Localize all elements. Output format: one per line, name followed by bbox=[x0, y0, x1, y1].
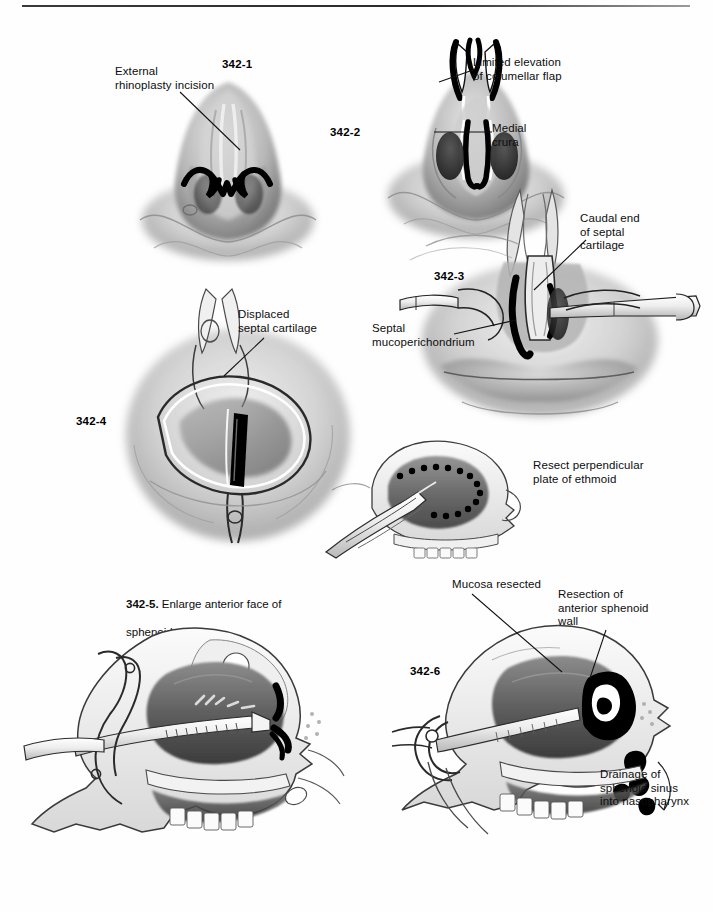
figure-number-342-3: 342-3 bbox=[434, 270, 464, 282]
leader-medial-crura bbox=[432, 124, 494, 140]
figure-number-342-6: 342-6 bbox=[410, 665, 440, 677]
figure-342-5-illustration bbox=[24, 618, 372, 850]
caption-342-5-text: Enlarge anterior face of bbox=[159, 598, 282, 610]
label-medial-crura: Medial crura bbox=[492, 122, 526, 149]
figure-ethmoid-illustration bbox=[318, 430, 538, 565]
leader-caudal-septum bbox=[532, 238, 588, 294]
leader-displaced-septal-cartilage bbox=[222, 336, 266, 378]
figure-number-342-2: 342-2 bbox=[330, 126, 360, 138]
label-limited-elevation-columellar-flap: Limited elevation of columellar flap bbox=[473, 56, 562, 83]
header-rule bbox=[22, 5, 690, 7]
caption-342-5-number: 342-5. bbox=[126, 598, 159, 610]
figure-number-342-4: 342-4 bbox=[76, 415, 106, 427]
leader-external-incision bbox=[178, 88, 248, 158]
figure-342-3-illustration bbox=[400, 190, 700, 425]
leader-resection-anterior-sphenoid bbox=[586, 628, 610, 680]
illustration-page: External rhinoplasty incision 342-1 bbox=[0, 0, 713, 912]
leader-septal-mucoperichondrium bbox=[452, 318, 518, 338]
figure-number-342-1: 342-1 bbox=[222, 58, 252, 70]
label-resection-anterior-sphenoid-wall: Resection of anterior sphenoid wall bbox=[558, 588, 649, 629]
label-resect-perpendicular-plate-ethmoid: Resect perpendicular plate of ethmoid bbox=[533, 459, 644, 486]
label-caudal-end-septal-cartilage: Caudal end of septal cartilage bbox=[580, 212, 640, 253]
leader-mucosa-resected bbox=[470, 592, 566, 676]
label-mucosa-resected: Mucosa resected bbox=[452, 578, 541, 592]
label-displaced-septal-cartilage: Displaced septal cartilage bbox=[238, 308, 317, 335]
label-drainage-sphenoid-sinus: Drainage of sphenoid sinus into nasophar… bbox=[600, 768, 689, 809]
leader-columellar-flap bbox=[437, 68, 475, 96]
